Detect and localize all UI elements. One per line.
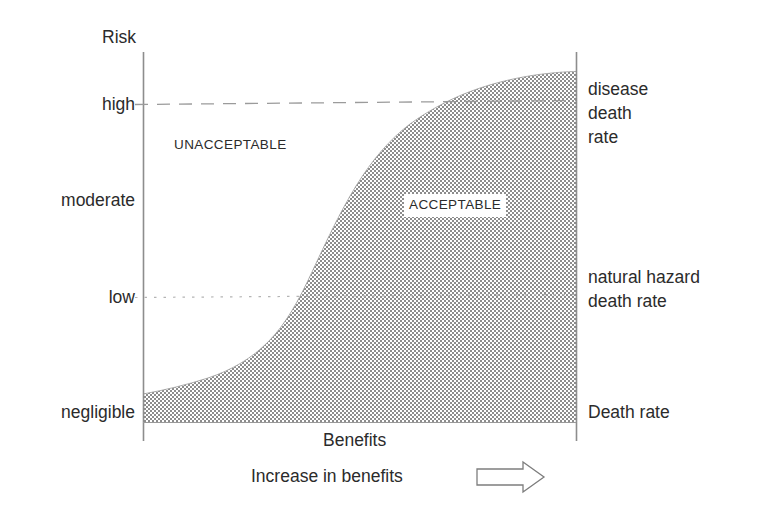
y-tick-high: high xyxy=(35,96,135,114)
acceptable-region-fill xyxy=(143,71,576,422)
right-label-rate: rate xyxy=(588,129,618,147)
x-axis-title: Benefits xyxy=(323,432,386,450)
right-label-death-rate: death rate xyxy=(588,293,667,311)
right-label-disease: disease xyxy=(588,81,648,99)
risk-benefit-diagram: Risk high moderate low negligible UNACCE… xyxy=(0,0,761,509)
right-label-death: death xyxy=(588,105,632,123)
zone-label-acceptable: ACCEPTABLE xyxy=(404,194,506,217)
y-tick-negligible: negligible xyxy=(5,404,135,422)
y-tick-low: low xyxy=(35,289,135,307)
right-label-natural-hazard: natural hazard xyxy=(588,269,700,287)
right-label-death-rate-axis: Death rate xyxy=(588,404,670,422)
caption-text: Increase in benefits xyxy=(251,468,403,486)
y-tick-moderate: moderate xyxy=(15,192,135,210)
y-axis-title: Risk xyxy=(102,29,136,47)
right-arrow-icon xyxy=(477,462,544,492)
zone-label-unacceptable: UNACCEPTABLE xyxy=(174,138,287,152)
